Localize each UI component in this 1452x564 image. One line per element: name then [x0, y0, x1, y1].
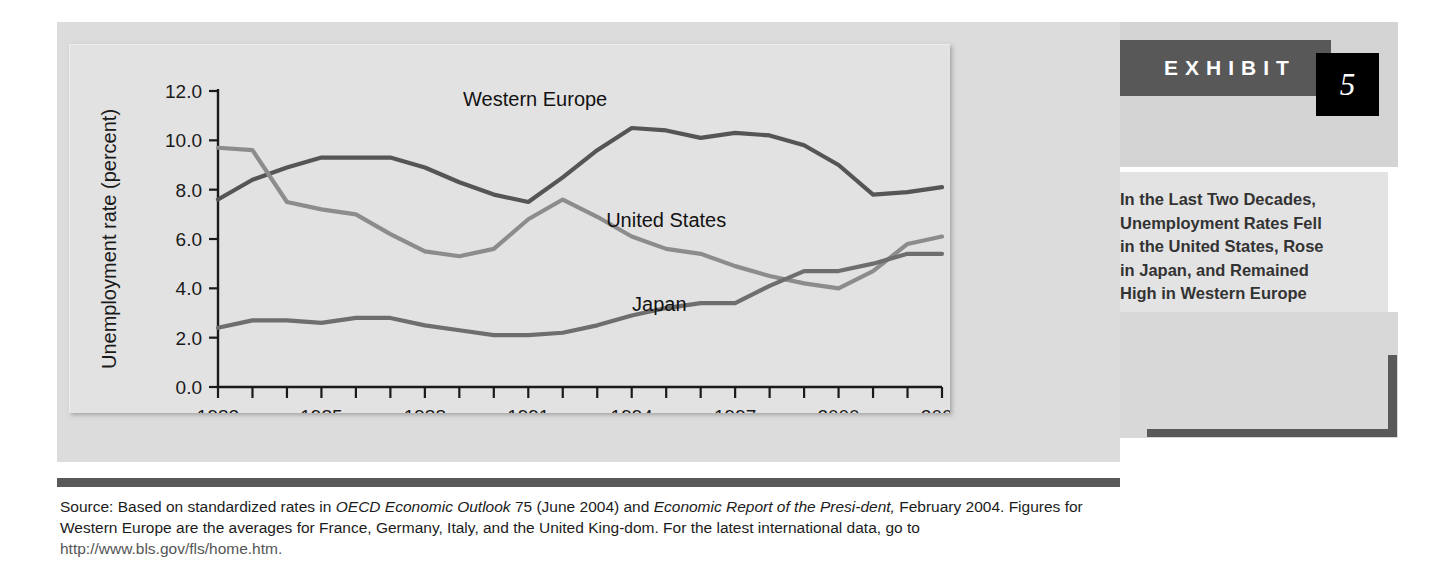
- source-note: Source: Based on standardized rates in O…: [60, 496, 1130, 559]
- exhibit-caption-line: Unemployment Rates Fell: [1120, 212, 1378, 236]
- source-note-text-4: dom. For the latest international data, …: [624, 519, 920, 536]
- x-tick-label: 1988: [404, 406, 446, 413]
- x-tick-label: 1985: [300, 406, 342, 413]
- source-note-italic-1: OECD Economic Outlook: [336, 498, 511, 515]
- x-tick-label: 2003: [921, 406, 950, 413]
- y-tick-label: 6.0: [176, 229, 202, 250]
- source-note-text-2: 75 (June 2004) and: [511, 498, 654, 515]
- exhibit-panel: EXHIBIT 5 In the Last Two Decades,Unempl…: [1120, 22, 1435, 462]
- source-note-text-1: Source: Based on standardized rates in: [60, 498, 336, 515]
- exhibit-caption-line: High in Western Europe: [1120, 282, 1378, 306]
- y-tick-label: 8.0: [176, 180, 202, 201]
- source-note-italic-2: Economic Report of the Presi-: [654, 498, 861, 515]
- series-label-united-states: United States: [606, 209, 726, 231]
- exhibit-accent-vertical: [1388, 355, 1397, 437]
- source-note-italic-3: dent,: [860, 498, 894, 515]
- figure-bottom-rule: [57, 478, 1120, 487]
- y-tick-label: 10.0: [165, 130, 202, 151]
- exhibit-word-label: EXHIBIT: [1120, 40, 1331, 96]
- exhibit-caption-line: In the Last Two Decades,: [1120, 188, 1378, 212]
- x-tick-label: 1997: [714, 406, 756, 413]
- chart-plot-panel: 0.02.04.06.08.010.012.0Unemployment rate…: [69, 44, 950, 413]
- exhibit-bottom-background: [1120, 312, 1398, 438]
- chart-figure-block: 0.02.04.06.08.010.012.0Unemployment rate…: [57, 22, 1120, 462]
- exhibit-caption-line: in Japan, and Remained: [1120, 259, 1378, 283]
- exhibit-number: 5: [1340, 67, 1356, 103]
- exhibit-caption: In the Last Two Decades,Unemployment Rat…: [1120, 172, 1388, 324]
- y-tick-label: 4.0: [176, 278, 202, 299]
- exhibit-accent-horizontal: [1147, 429, 1397, 437]
- x-tick-label: 2000: [817, 406, 859, 413]
- y-axis-title: Unemployment rate (percent): [98, 109, 120, 369]
- exhibit-number-box: 5: [1316, 53, 1379, 116]
- x-tick-label: 1982: [197, 406, 239, 413]
- series-label-western-europe: Western Europe: [463, 88, 607, 110]
- source-note-url[interactable]: http://www.bls.gov/fls/home.htm.: [60, 540, 282, 557]
- exhibit-figure-page: 0.02.04.06.08.010.012.0Unemployment rate…: [0, 0, 1452, 564]
- series-line-japan: [218, 254, 942, 335]
- y-tick-label: 0.0: [176, 377, 202, 398]
- exhibit-caption-line: in the United States, Rose: [1120, 235, 1378, 259]
- x-tick-label: 1991: [507, 406, 549, 413]
- y-tick-label: 2.0: [176, 328, 202, 349]
- series-line-united-states: [218, 148, 942, 289]
- x-tick-label: 1994: [611, 406, 654, 413]
- y-tick-label: 12.0: [165, 81, 202, 102]
- series-label-japan: Japan: [632, 293, 687, 315]
- unemployment-line-chart: 0.02.04.06.08.010.012.0Unemployment rate…: [70, 45, 950, 413]
- series-line-western-europe: [218, 128, 942, 202]
